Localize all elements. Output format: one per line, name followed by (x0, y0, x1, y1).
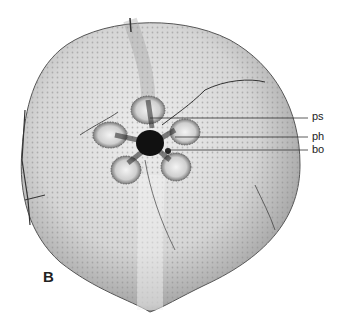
panel-label: B (43, 268, 54, 285)
label-ps: ps (312, 111, 324, 122)
label-ph: ph (312, 131, 324, 142)
peristome (136, 130, 164, 156)
fossil-figure: ps ph bo B (0, 0, 339, 323)
label-bo: bo (312, 144, 324, 155)
